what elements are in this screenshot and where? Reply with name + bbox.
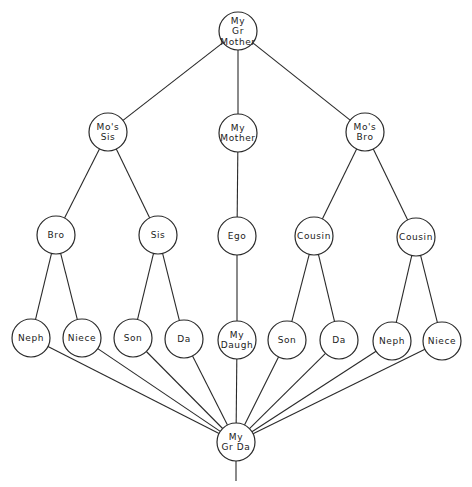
node-label: My xyxy=(231,123,245,133)
node-label: Da xyxy=(177,334,191,344)
node-sis: Sis xyxy=(139,216,177,254)
node-label: Neph xyxy=(379,336,405,346)
node-label: Gr Da xyxy=(222,442,251,452)
edge-neph-1-to-my-gr-da xyxy=(48,347,219,434)
edge-bro-to-neph-1 xyxy=(35,253,51,319)
node-mos-sis: Mo'sSis xyxy=(89,113,127,151)
edge-cousin-2-to-neph-2 xyxy=(396,256,411,323)
edge-cousin-1-to-da-2 xyxy=(318,254,334,321)
node-label: Da xyxy=(332,335,346,345)
edge-sis-to-da-1 xyxy=(163,253,180,320)
edge-cousin-2-to-niece-2 xyxy=(421,255,438,322)
edge-mos-bro-to-cousin-1 xyxy=(322,149,356,219)
node-label: Sis xyxy=(151,230,166,240)
edge-bro-to-niece-1 xyxy=(61,253,78,319)
kinship-diagram-svg: MyGrMotherMo'sSisMyMotherMo'sBroBroSisEg… xyxy=(0,0,472,487)
edge-niece-2-to-my-gr-da xyxy=(253,349,425,433)
node-label: Ego xyxy=(228,231,247,241)
edge-sis-to-son-1 xyxy=(137,253,153,319)
edge-da-1-to-my-gr-da xyxy=(193,356,228,425)
node-label: Bro xyxy=(357,132,374,142)
node-ego: Ego xyxy=(218,217,256,255)
node-bro: Bro xyxy=(37,216,75,254)
node-son-2: Son xyxy=(268,321,306,359)
edge-my-daugh-to-my-gr-da xyxy=(236,359,237,423)
edge-cousin-1-to-son-2 xyxy=(292,254,309,321)
edge-mos-sis-to-sis xyxy=(116,149,149,218)
node-label: Bro xyxy=(48,230,65,240)
edge-son-1-to-my-gr-da xyxy=(146,351,222,428)
node-label: Mother xyxy=(220,37,255,47)
node-label: Cousin xyxy=(297,231,331,241)
node-label: Niece xyxy=(68,333,96,343)
edge-my-mother-to-ego xyxy=(237,152,238,217)
edges-layer xyxy=(35,43,437,481)
node-label: Mother xyxy=(220,133,255,143)
node-niece-2: Niece xyxy=(423,322,461,360)
node-label: Neph xyxy=(18,333,44,343)
node-da-1: Da xyxy=(165,320,203,358)
node-my-gr-da: MyGr Da xyxy=(217,423,255,461)
node-neph-1: Neph xyxy=(12,319,50,357)
node-niece-1: Niece xyxy=(63,319,101,357)
node-label: Daugh xyxy=(221,340,254,350)
edge-mos-bro-to-cousin-2 xyxy=(373,149,407,220)
node-my-mother: MyMother xyxy=(219,114,257,152)
edge-mos-sis-to-bro xyxy=(65,149,100,218)
edge-grandmother-to-mos-sis xyxy=(123,43,223,121)
node-cousin-1: Cousin xyxy=(295,217,333,255)
node-label: Cousin xyxy=(399,232,433,242)
edge-grandmother-to-mos-bro xyxy=(253,43,350,120)
node-label: My xyxy=(231,16,245,26)
node-label: Niece xyxy=(428,336,456,346)
node-label: Son xyxy=(278,335,297,345)
edge-neph-2-to-my-gr-da xyxy=(252,351,376,431)
node-my-daugh: MyDaugh xyxy=(218,321,256,359)
node-label: Mo's xyxy=(354,122,377,132)
node-label: Sis xyxy=(101,132,116,142)
node-label: My xyxy=(230,330,244,340)
node-label: Gr xyxy=(232,26,244,36)
edge-niece-1-to-my-gr-da xyxy=(98,349,221,432)
node-da-2: Da xyxy=(320,321,358,359)
node-label: Mo's xyxy=(97,122,120,132)
edge-son-2-to-my-gr-da xyxy=(244,357,278,425)
node-cousin-2: Cousin xyxy=(397,218,435,256)
node-neph-2: Neph xyxy=(373,322,411,360)
kinship-diagram: MyGrMotherMo'sSisMyMotherMo'sBroBroSisEg… xyxy=(0,0,472,487)
node-mos-bro: Mo'sBro xyxy=(346,113,384,151)
node-son-1: Son xyxy=(114,319,152,357)
node-label: My xyxy=(229,432,243,442)
node-label: Son xyxy=(124,333,143,343)
node-grandmother: MyGrMother xyxy=(219,12,257,50)
